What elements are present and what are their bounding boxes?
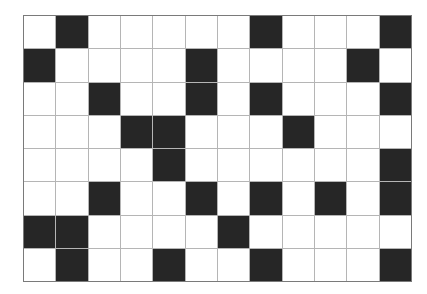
grid-cell-r2-c11[interactable] <box>380 83 411 115</box>
grid-cell-r5-c7[interactable] <box>250 182 281 214</box>
grid-cell-r5-c5[interactable] <box>186 182 217 214</box>
grid-cell-r3-c6[interactable] <box>218 116 249 148</box>
grid-cell-r7-c8[interactable] <box>283 249 314 281</box>
grid-cell-r3-c5[interactable] <box>186 116 217 148</box>
grid-cell-r6-c4[interactable] <box>153 216 184 248</box>
grid-cell-r5-c9[interactable] <box>315 182 346 214</box>
grid-cell-r6-c2[interactable] <box>89 216 120 248</box>
grid-cell-r5-c1[interactable] <box>56 182 87 214</box>
grid-cell-r3-c4[interactable] <box>153 116 184 148</box>
grid-cell-r5-c11[interactable] <box>380 182 411 214</box>
grid-cell-r7-c9[interactable] <box>315 249 346 281</box>
grid-cell-r3-c10[interactable] <box>347 116 378 148</box>
grid-cell-r0-c7[interactable] <box>250 16 281 48</box>
grid-cell-r3-c9[interactable] <box>315 116 346 148</box>
grid-cell-r1-c4[interactable] <box>153 49 184 81</box>
grid-cell-r0-c8[interactable] <box>283 16 314 48</box>
grid-cell-r2-c6[interactable] <box>218 83 249 115</box>
grid-cell-r2-c9[interactable] <box>315 83 346 115</box>
grid-cell-r2-c8[interactable] <box>283 83 314 115</box>
grid-cell-r6-c1[interactable] <box>56 216 87 248</box>
grid-cell-r0-c0[interactable] <box>24 16 55 48</box>
grid-cell-r7-c10[interactable] <box>347 249 378 281</box>
grid-cell-r4-c3[interactable] <box>121 149 152 181</box>
grid-cell-r2-c2[interactable] <box>89 83 120 115</box>
grid-cell-r6-c5[interactable] <box>186 216 217 248</box>
grid-cell-r6-c3[interactable] <box>121 216 152 248</box>
grid-cell-r1-c11[interactable] <box>380 49 411 81</box>
grid-cell-r0-c11[interactable] <box>380 16 411 48</box>
grid-cell-r3-c8[interactable] <box>283 116 314 148</box>
grid-cell-r1-c3[interactable] <box>121 49 152 81</box>
grid-cell-r5-c0[interactable] <box>24 182 55 214</box>
grid-cell-r4-c9[interactable] <box>315 149 346 181</box>
grid-cell-r4-c2[interactable] <box>89 149 120 181</box>
grid-cell-r0-c9[interactable] <box>315 16 346 48</box>
grid-cell-r2-c3[interactable] <box>121 83 152 115</box>
grid-cell-r1-c7[interactable] <box>250 49 281 81</box>
grid-cell-r4-c10[interactable] <box>347 149 378 181</box>
grid-cell-r1-c6[interactable] <box>218 49 249 81</box>
grid-cell-r6-c0[interactable] <box>24 216 55 248</box>
grid-cell-r4-c6[interactable] <box>218 149 249 181</box>
grid-cell-r2-c0[interactable] <box>24 83 55 115</box>
grid-cell-r1-c8[interactable] <box>283 49 314 81</box>
grid-cell-r6-c7[interactable] <box>250 216 281 248</box>
grid-cell-r5-c8[interactable] <box>283 182 314 214</box>
grid-cell-r2-c5[interactable] <box>186 83 217 115</box>
grid-cell-r2-c10[interactable] <box>347 83 378 115</box>
grid-cell-r4-c8[interactable] <box>283 149 314 181</box>
grid-cell-r1-c9[interactable] <box>315 49 346 81</box>
grid-cell-r0-c1[interactable] <box>56 16 87 48</box>
grid-cell-r7-c5[interactable] <box>186 249 217 281</box>
grid-cell-r7-c7[interactable] <box>250 249 281 281</box>
grid-cell-r1-c5[interactable] <box>186 49 217 81</box>
grid-cell-r3-c7[interactable] <box>250 116 281 148</box>
grid-cell-r6-c9[interactable] <box>315 216 346 248</box>
grid-cell-r7-c0[interactable] <box>24 249 55 281</box>
grid-cell-r1-c10[interactable] <box>347 49 378 81</box>
grid-cell-r4-c11[interactable] <box>380 149 411 181</box>
grid-cell-r0-c6[interactable] <box>218 16 249 48</box>
grid-cell-r7-c1[interactable] <box>56 249 87 281</box>
grid-cell-r5-c6[interactable] <box>218 182 249 214</box>
grid-cell-r5-c2[interactable] <box>89 182 120 214</box>
grid-cell-r3-c11[interactable] <box>380 116 411 148</box>
grid-cell-r7-c2[interactable] <box>89 249 120 281</box>
grid-cell-r4-c7[interactable] <box>250 149 281 181</box>
grid-cell-r0-c4[interactable] <box>153 16 184 48</box>
grid-cell-r1-c0[interactable] <box>24 49 55 81</box>
grid-board <box>23 15 412 282</box>
grid-cell-r7-c11[interactable] <box>380 249 411 281</box>
grid-cell-r0-c3[interactable] <box>121 16 152 48</box>
grid-cell-r2-c1[interactable] <box>56 83 87 115</box>
grid-cell-r4-c4[interactable] <box>153 149 184 181</box>
grid-cell-r3-c3[interactable] <box>121 116 152 148</box>
grid-cell-r6-c8[interactable] <box>283 216 314 248</box>
grid-cell-r0-c5[interactable] <box>186 16 217 48</box>
grid-cell-r1-c1[interactable] <box>56 49 87 81</box>
grid-cell-r2-c7[interactable] <box>250 83 281 115</box>
grid-cell-r0-c2[interactable] <box>89 16 120 48</box>
grid-cell-r7-c6[interactable] <box>218 249 249 281</box>
grid-cell-r1-c2[interactable] <box>89 49 120 81</box>
grid-cell-r6-c10[interactable] <box>347 216 378 248</box>
grid-cell-r3-c0[interactable] <box>24 116 55 148</box>
grid-cell-r4-c1[interactable] <box>56 149 87 181</box>
grid-cell-r5-c4[interactable] <box>153 182 184 214</box>
grid-cell-r3-c1[interactable] <box>56 116 87 148</box>
grid-cell-r4-c5[interactable] <box>186 149 217 181</box>
grid-cell-r2-c4[interactable] <box>153 83 184 115</box>
grid-cell-r7-c4[interactable] <box>153 249 184 281</box>
grid-cell-r3-c2[interactable] <box>89 116 120 148</box>
grid-cell-r6-c11[interactable] <box>380 216 411 248</box>
grid-cell-r4-c0[interactable] <box>24 149 55 181</box>
grid-cell-r5-c3[interactable] <box>121 182 152 214</box>
grid-cell-r7-c3[interactable] <box>121 249 152 281</box>
grid-cell-r0-c10[interactable] <box>347 16 378 48</box>
grid-cell-r6-c6[interactable] <box>218 216 249 248</box>
grid-cell-r5-c10[interactable] <box>347 182 378 214</box>
